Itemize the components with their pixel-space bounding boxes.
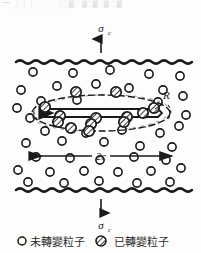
crack-length-label: 2c — [96, 151, 106, 162]
untransformed-particle — [53, 82, 61, 90]
stress-bottom-symbol: σ — [98, 219, 104, 231]
untransformed-particle — [145, 70, 153, 78]
untransformed-particle — [92, 80, 100, 88]
applied-stress-top-group: σ c — [98, 22, 112, 53]
untransformed-particle — [24, 178, 32, 186]
legend-hatched-circle-icon — [96, 236, 106, 246]
transformed-particle — [138, 108, 148, 118]
untransformed-particle — [166, 178, 174, 186]
transformed-particle — [66, 123, 76, 133]
legend-label-transformed: 已轉變粒子 — [114, 235, 169, 249]
untransformed-particle — [125, 84, 133, 92]
stress-top-symbol: σ — [98, 22, 104, 34]
untransformed-particle — [176, 72, 184, 80]
untransformed-particle — [106, 66, 114, 74]
untransformed-particle — [114, 168, 122, 176]
untransformed-particle — [156, 129, 164, 137]
untransformed-particle — [179, 92, 187, 100]
untransformed-particle — [175, 122, 183, 130]
untransformed-particle — [136, 142, 144, 150]
applied-stress-bottom-group: σ c — [98, 199, 112, 234]
untransformed-particle — [182, 111, 190, 119]
transformed-particle — [84, 126, 94, 136]
untransformed-particle — [29, 68, 37, 76]
transformed-particle — [71, 87, 81, 97]
untransformed-particle — [22, 139, 30, 147]
untransformed-particle — [60, 179, 68, 187]
untransformed-particle — [41, 127, 49, 135]
stress-top-subscript: c — [108, 29, 112, 37]
untransformed-particle — [17, 86, 25, 94]
untransformed-particle — [13, 104, 21, 112]
untransformed-particle — [168, 143, 176, 151]
untransformed-particle — [100, 138, 108, 146]
zone-radius-label: R — [162, 89, 170, 101]
crack-length-dimension: 2c — [30, 151, 172, 162]
transformed-particle — [53, 117, 63, 127]
legend-open-circle-icon — [18, 237, 26, 245]
transformation-toughening-figure: ━━ │ │ │ ░░▓░ ▓░▓░▓ ░▓ ░░░░░░░░░░░ — [0, 0, 201, 253]
untransformed-particle — [162, 156, 170, 164]
untransformed-particle — [147, 167, 155, 175]
untransformed-particle — [32, 153, 40, 161]
upper-wavy-boundary — [16, 60, 192, 63]
untransformed-particle — [58, 137, 66, 145]
legend-label-untransformed: 未轉變粒子 — [30, 235, 85, 249]
lower-wavy-boundary — [16, 188, 192, 191]
untransformed-particle — [14, 166, 22, 174]
untransformed-particle — [46, 168, 54, 176]
untransformed-particle — [95, 177, 103, 185]
untransformed-particle-field — [13, 66, 190, 187]
untransformed-particle — [80, 167, 88, 175]
transformed-particle — [40, 102, 50, 112]
untransformed-particle — [130, 153, 138, 161]
untransformed-particle — [66, 154, 74, 162]
legend: 未轉變粒子 已轉變粒子 — [18, 235, 169, 249]
stress-bottom-subscript: c — [108, 226, 112, 234]
untransformed-particle — [69, 69, 77, 77]
untransformed-particle — [177, 164, 185, 172]
transformed-particle — [111, 87, 121, 97]
figure-canvas: σ c R 2c — [0, 0, 201, 253]
transformed-particle — [119, 117, 129, 127]
untransformed-particle — [133, 179, 141, 187]
transformed-particle — [149, 103, 159, 113]
